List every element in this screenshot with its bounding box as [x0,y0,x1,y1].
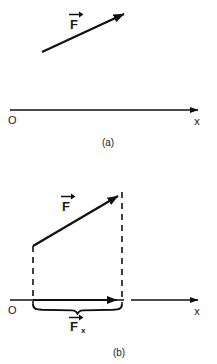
force-vector-b [33,196,118,246]
force-vector-label-b: F [61,194,76,215]
x-axis-label-b: x [194,305,200,317]
component-label-accent-head [79,315,84,321]
force-label-b-accent-head [71,194,76,200]
x-axis-label-a: x [194,115,200,127]
caption-b: (b) [113,347,125,358]
force-vector-a [42,14,124,52]
figure-canvas: F O x (a) F [0,0,217,364]
origin-label-b: O [8,304,17,316]
caption-a: (a) [102,137,114,148]
origin-label-a: O [8,114,17,126]
component-vector-label-fx: F x [69,315,86,336]
panel-b: F F x O [8,192,200,358]
force-vector-label-a: F [69,12,84,33]
component-label-fx-text: F [70,319,78,334]
physics-vector-figure: F O x (a) F [0,0,217,364]
force-label-a-text: F [70,17,78,32]
component-label-fx-subscript: x [81,326,86,335]
panel-a: F O x (a) [8,12,200,149]
force-label-b-text: F [62,199,70,214]
force-label-a-accent-head [79,12,84,18]
fx-brace [33,304,122,314]
